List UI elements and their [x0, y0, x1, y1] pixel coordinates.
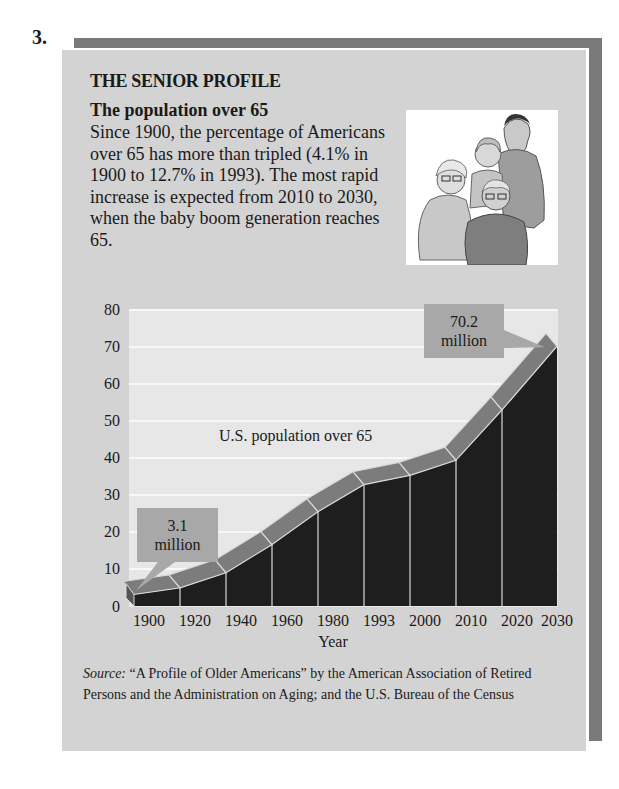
callout-last-value: 70.2 million [424, 304, 504, 358]
x-tick-label: 1940 [225, 612, 257, 630]
x-tick-label: 1920 [179, 612, 211, 630]
source-note: Source: “A Profile of Older Americans” b… [83, 663, 553, 705]
callout-last-unit: million [424, 331, 504, 350]
source-prefix: Source: [83, 666, 126, 681]
callout-first-value: 3.1 million [137, 508, 218, 562]
callout-first-number: 3.1 [137, 516, 218, 535]
x-tick-label: 2010 [455, 612, 487, 630]
series-label: U.S. population over 65 [219, 427, 372, 445]
source-text: “A Profile of Older Americans” by the Am… [83, 666, 532, 702]
y-tick-label: 40 [86, 449, 120, 467]
callout-last-number: 70.2 [424, 312, 504, 331]
x-tick-label: 2020 [501, 612, 533, 630]
x-tick-label: 1993 [363, 612, 395, 630]
callout-first-unit: million [137, 535, 218, 554]
y-tick-label: 10 [86, 560, 120, 578]
y-tick-label: 60 [86, 375, 120, 393]
y-tick-label: 0 [86, 598, 120, 616]
x-tick-label: 2030 [541, 612, 573, 630]
y-tick-label: 30 [86, 486, 120, 504]
y-tick-label: 20 [86, 523, 120, 541]
x-tick-label: 2000 [409, 612, 441, 630]
x-tick-label: 1900 [133, 612, 165, 630]
x-tick-label: 1960 [271, 612, 303, 630]
x-axis-label: Year [318, 633, 347, 651]
y-tick-label: 50 [86, 412, 120, 430]
y-tick-label: 70 [86, 338, 120, 356]
x-tick-label: 1980 [317, 612, 349, 630]
y-tick-label: 80 [86, 301, 120, 319]
